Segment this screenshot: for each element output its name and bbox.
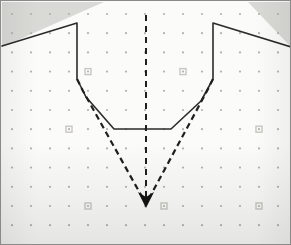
grid-dot bbox=[11, 224, 13, 226]
grid-dot bbox=[68, 147, 70, 149]
grid-dot bbox=[125, 71, 127, 73]
grid-dot bbox=[49, 90, 51, 92]
grid-dot bbox=[201, 147, 203, 149]
grid-dot bbox=[106, 128, 108, 130]
grid-dot bbox=[220, 109, 222, 111]
grid-dot bbox=[68, 51, 70, 53]
grid-dot bbox=[68, 224, 70, 226]
grid-dot bbox=[106, 13, 108, 15]
grid-dot bbox=[106, 147, 108, 149]
grid-dot bbox=[220, 224, 222, 226]
grid-dot bbox=[182, 147, 184, 149]
grid-dot bbox=[201, 32, 203, 34]
grid-dot bbox=[220, 147, 222, 149]
grid-dot bbox=[144, 13, 146, 15]
grid-dot bbox=[182, 51, 184, 53]
grid-dot bbox=[201, 167, 203, 169]
grid-dot bbox=[144, 32, 146, 34]
grid-dot bbox=[11, 128, 13, 130]
grid-dot bbox=[182, 109, 184, 111]
grid-dot bbox=[182, 32, 184, 34]
grid-dot bbox=[11, 147, 13, 149]
theoretical-profile-right-line bbox=[146, 79, 213, 204]
grid-dot bbox=[11, 71, 13, 73]
figure-stage: Cross-section profile over dot grid Tech… bbox=[0, 0, 291, 245]
grid-dot bbox=[106, 51, 108, 53]
grid-dot bbox=[49, 205, 51, 207]
grid-dot bbox=[11, 186, 13, 188]
grid-dot bbox=[277, 90, 279, 92]
grid-dot bbox=[68, 109, 70, 111]
grid-dot bbox=[87, 205, 89, 207]
grid-dot bbox=[30, 32, 32, 34]
grid-dot bbox=[49, 51, 51, 53]
grid-dot bbox=[220, 32, 222, 34]
grid-dot bbox=[68, 167, 70, 169]
grid-dot bbox=[182, 13, 184, 15]
grid-dot bbox=[30, 205, 32, 207]
grid-dot bbox=[258, 147, 260, 149]
grid-dot bbox=[239, 13, 241, 15]
grid-dot bbox=[163, 32, 165, 34]
grid-dot bbox=[30, 167, 32, 169]
grid-dot bbox=[182, 90, 184, 92]
grid-dot bbox=[144, 90, 146, 92]
grid-dot bbox=[163, 205, 165, 207]
grid-dot bbox=[11, 51, 13, 53]
grid-dot bbox=[201, 109, 203, 111]
grid-dot bbox=[144, 167, 146, 169]
grid-dot bbox=[201, 51, 203, 53]
grid-dot bbox=[220, 90, 222, 92]
grid-dot bbox=[87, 224, 89, 226]
grid-dot bbox=[220, 167, 222, 169]
grid-dot bbox=[11, 109, 13, 111]
grid-dot bbox=[87, 51, 89, 53]
grid-dot bbox=[68, 186, 70, 188]
grid-dot bbox=[30, 90, 32, 92]
grid-dot bbox=[258, 13, 260, 15]
grid-dot bbox=[163, 71, 165, 73]
grid-dot bbox=[11, 32, 13, 34]
grid-dot bbox=[258, 224, 260, 226]
grid-dot bbox=[277, 32, 279, 34]
grid-dot bbox=[68, 205, 70, 207]
grid-dot bbox=[87, 167, 89, 169]
grid-dot bbox=[30, 13, 32, 15]
grid-dot bbox=[49, 32, 51, 34]
grid-dot bbox=[125, 224, 127, 226]
grid-dot bbox=[68, 13, 70, 15]
grid-dot bbox=[49, 128, 51, 130]
grid-dot bbox=[220, 51, 222, 53]
grid-dot bbox=[30, 186, 32, 188]
grid-dot bbox=[201, 205, 203, 207]
grid-dot bbox=[258, 71, 260, 73]
grid-dot bbox=[182, 224, 184, 226]
grid-dot bbox=[125, 32, 127, 34]
grid-dot bbox=[277, 71, 279, 73]
grid-dot bbox=[144, 224, 146, 226]
grid-dot bbox=[182, 205, 184, 207]
grid-dot bbox=[239, 32, 241, 34]
grid-node-markers bbox=[66, 69, 262, 209]
grid-dot bbox=[277, 109, 279, 111]
grid-dot bbox=[125, 147, 127, 149]
grid-dot bbox=[258, 128, 260, 130]
grid-dot bbox=[220, 128, 222, 130]
grid-dot bbox=[201, 128, 203, 130]
grid-dot bbox=[87, 147, 89, 149]
grid-dot bbox=[49, 186, 51, 188]
grid-dot bbox=[125, 13, 127, 15]
grid-dot bbox=[258, 90, 260, 92]
grid-dot bbox=[11, 167, 13, 169]
grid-dot bbox=[49, 71, 51, 73]
grid-dot bbox=[106, 167, 108, 169]
grid-dot bbox=[201, 90, 203, 92]
grid-dot bbox=[125, 51, 127, 53]
drawing-frame bbox=[0, 0, 291, 245]
grid-dot bbox=[30, 51, 32, 53]
grid-dot bbox=[144, 109, 146, 111]
grid-dot bbox=[201, 13, 203, 15]
grid-dot bbox=[87, 71, 89, 73]
grid-dot bbox=[87, 32, 89, 34]
grid-dot bbox=[258, 32, 260, 34]
